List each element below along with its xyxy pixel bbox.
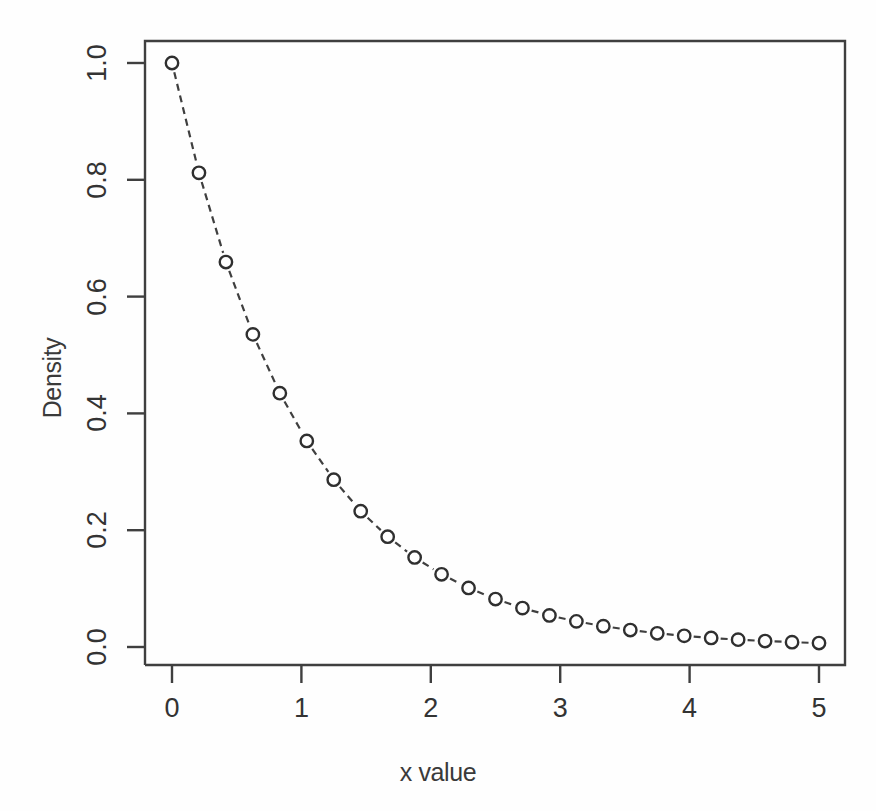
x-tick-label-4: 4 xyxy=(682,693,697,724)
series-segment xyxy=(450,579,460,584)
series-segment xyxy=(667,634,675,635)
series-segment xyxy=(613,628,621,629)
y-axis-title: Density xyxy=(38,338,67,419)
series-segment xyxy=(640,631,648,632)
y-tick-label-5: 1.0 xyxy=(82,44,113,82)
data-point xyxy=(678,630,690,642)
y-tick-label-1: 0.2 xyxy=(82,511,113,549)
data-point xyxy=(381,530,393,542)
series-segment xyxy=(586,623,594,624)
data-point xyxy=(543,609,555,621)
data-point xyxy=(732,633,744,645)
series-segment xyxy=(312,449,328,472)
data-point xyxy=(247,328,259,340)
data-series-points xyxy=(166,57,825,649)
y-tick-label-3: 0.6 xyxy=(82,278,113,316)
data-point xyxy=(193,167,205,179)
data-point xyxy=(651,627,663,639)
series-segment xyxy=(368,518,381,530)
plot-frame xyxy=(145,41,845,665)
data-point xyxy=(328,473,340,485)
data-point xyxy=(301,435,313,447)
series-segment xyxy=(174,72,196,163)
x-tick-label-2: 2 xyxy=(423,693,438,724)
data-point xyxy=(624,624,636,636)
y-tick-label-2: 0.4 xyxy=(82,395,113,433)
series-segment xyxy=(229,271,249,326)
x-tick-label-1: 1 xyxy=(294,693,309,724)
y-tick-label-0: 0.0 xyxy=(82,628,113,666)
series-segment xyxy=(721,639,729,640)
data-point xyxy=(570,615,582,627)
data-point xyxy=(489,593,501,605)
data-point xyxy=(759,635,771,647)
y-axis xyxy=(127,63,145,647)
plot-canvas xyxy=(0,0,876,811)
series-segment xyxy=(694,637,702,638)
x-axis-title: x value xyxy=(0,758,876,787)
data-point xyxy=(435,568,447,580)
series-segment xyxy=(202,182,223,253)
data-point xyxy=(274,387,286,399)
data-point xyxy=(166,57,178,69)
plot-box xyxy=(145,41,845,665)
x-tick-label-0: 0 xyxy=(164,693,179,724)
series-segment xyxy=(477,592,486,596)
x-tick-label-5: 5 xyxy=(811,693,826,724)
data-point xyxy=(220,256,232,268)
series-segment xyxy=(559,617,567,619)
data-point xyxy=(462,582,474,594)
series-segment xyxy=(532,611,541,613)
data-point xyxy=(597,620,609,632)
series-segment xyxy=(284,401,302,432)
data-point xyxy=(355,505,367,517)
density-plot-figure: 012345 0.00.20.40.60.81.0 x value Densit… xyxy=(0,0,876,811)
data-point xyxy=(813,637,825,649)
x-tick-label-3: 3 xyxy=(553,693,568,724)
data-point xyxy=(408,551,420,563)
series-segment xyxy=(340,487,355,504)
data-point xyxy=(705,632,717,644)
data-point xyxy=(516,602,528,614)
y-tick-label-4: 0.8 xyxy=(82,161,113,199)
x-axis xyxy=(172,665,819,683)
series-segment xyxy=(505,602,514,605)
series-segment xyxy=(257,343,276,385)
series-segment xyxy=(423,562,434,569)
data-series-line xyxy=(174,72,809,643)
data-point xyxy=(786,636,798,648)
series-segment xyxy=(395,542,407,551)
